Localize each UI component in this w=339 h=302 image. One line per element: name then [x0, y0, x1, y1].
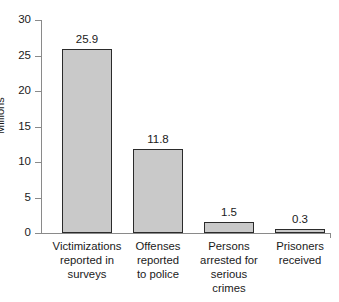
y-axis-tick [35, 127, 41, 128]
y-axis-tick-label: 0 [25, 227, 31, 238]
y-axis-line [41, 20, 42, 234]
y-axis-tick-label: 5 [25, 192, 31, 203]
y-axis-tick [35, 20, 41, 21]
y-axis-title-label: Millions [0, 120, 6, 134]
y-axis-tick [35, 91, 41, 92]
bar [62, 49, 112, 233]
y-axis-tick-label: 20 [18, 85, 31, 96]
y-axis-tick-label: 15 [18, 121, 31, 132]
y-axis-tick [35, 56, 41, 57]
bar-value-label: 11.8 [128, 133, 188, 145]
x-axis-end-tick [330, 233, 331, 238]
y-axis-tick [35, 233, 41, 234]
y-axis-tick [35, 198, 41, 199]
y-axis-tick-label: 30 [18, 14, 31, 25]
bar [133, 149, 183, 233]
y-axis-tick [35, 162, 41, 163]
x-axis-line [41, 233, 331, 234]
bar-value-label: 1.5 [199, 206, 259, 218]
y-axis-tick-label: 10 [18, 156, 31, 167]
bar [275, 229, 325, 233]
bar-value-label: 25.9 [57, 33, 117, 45]
y-axis-tick-label: 25 [18, 50, 31, 61]
bar-value-label: 0.3 [270, 213, 330, 225]
bar-chart: Millions 051015202530 25.911.81.50.3 Vic… [0, 0, 339, 302]
x-axis-category-label: Prisoners received [256, 239, 339, 267]
bar [204, 222, 254, 233]
